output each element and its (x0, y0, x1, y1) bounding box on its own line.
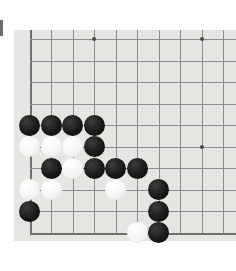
grid-line-horizontal (30, 104, 236, 105)
star-point-icon (200, 145, 204, 149)
grid-line-horizontal (30, 211, 236, 212)
black-stone[interactable] (127, 158, 148, 179)
black-stone[interactable] (62, 115, 83, 136)
go-board-surface[interactable] (14, 30, 236, 241)
screenshot-root (0, 0, 236, 271)
black-stone[interactable] (105, 158, 126, 179)
white-stone[interactable] (62, 136, 83, 157)
white-stone[interactable] (19, 136, 40, 157)
star-point-icon (92, 37, 96, 41)
white-stone[interactable] (62, 158, 83, 179)
black-stone[interactable] (84, 158, 105, 179)
black-stone[interactable] (148, 179, 169, 200)
black-stone[interactable] (84, 115, 105, 136)
white-stone[interactable] (41, 179, 62, 200)
black-stone[interactable] (19, 115, 40, 136)
black-stone[interactable] (84, 136, 105, 157)
white-stone[interactable] (105, 179, 126, 200)
left-edge-marker (0, 20, 3, 36)
white-stone[interactable] (127, 222, 148, 243)
grid-line-horizontal (30, 61, 236, 62)
go-board-grid-layer (14, 30, 236, 241)
star-point-icon (200, 37, 204, 41)
black-stone[interactable] (41, 115, 62, 136)
white-stone[interactable] (41, 136, 62, 157)
white-stone[interactable] (19, 179, 40, 200)
black-stone[interactable] (19, 201, 40, 222)
black-stone[interactable] (148, 222, 169, 243)
black-stone[interactable] (148, 201, 169, 222)
grid-line-horizontal (30, 82, 236, 83)
black-stone[interactable] (41, 158, 62, 179)
grid-line-horizontal (30, 39, 236, 40)
